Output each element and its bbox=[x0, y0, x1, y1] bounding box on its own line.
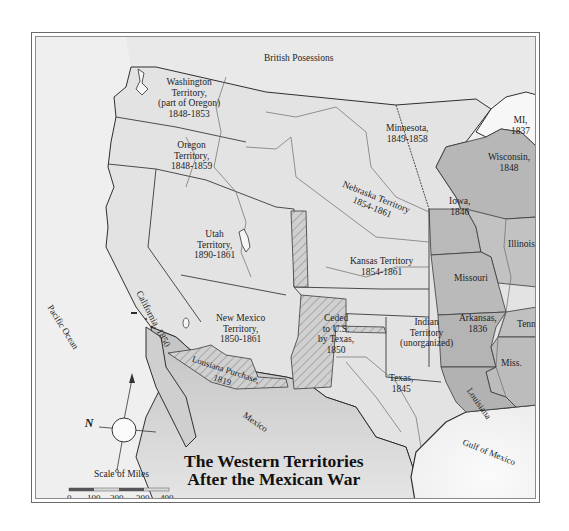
map-title: The Western Territories After the Mexica… bbox=[184, 452, 364, 488]
label-texas: Texas, 1845 bbox=[389, 373, 413, 394]
scale-tick-400: 400 bbox=[160, 493, 174, 499]
scale-bar bbox=[69, 488, 169, 491]
map-title-line-1: The Western Territories bbox=[184, 452, 364, 470]
scale-tick-300: 300 bbox=[136, 493, 150, 499]
scale-tick-0: 0 bbox=[67, 493, 72, 499]
map-title-line-2: After the Mexican War bbox=[184, 470, 364, 488]
compass-north-letter: N bbox=[84, 418, 94, 429]
label-wisconsin: Wisconsin, 1848 bbox=[488, 152, 530, 173]
label-michigan: MI, 1837 bbox=[511, 115, 530, 136]
label-ceded-by-texas: Ceded to U.S. by Texas, 1850 bbox=[318, 313, 354, 355]
scale-title: Scale of Miles bbox=[94, 469, 149, 479]
label-indian-territory: Indian Territory (unorganized) bbox=[400, 317, 453, 349]
label-british-possessions: British Posessions bbox=[264, 53, 333, 64]
scale-tick-100: 100 bbox=[87, 493, 101, 499]
channel-island bbox=[131, 312, 137, 314]
map-canvas: British Posessions Washington Territory,… bbox=[35, 36, 536, 499]
label-mississippi: Miss. bbox=[501, 358, 522, 369]
scale-tick-200: 200 bbox=[110, 493, 124, 499]
label-tennessee: Tenn. bbox=[517, 319, 536, 330]
label-missouri: Missouri bbox=[454, 273, 488, 284]
ceded-strip-north bbox=[291, 211, 308, 287]
map-frame: British Posessions Washington Territory,… bbox=[31, 32, 540, 503]
label-washington-territory: Washington Territory, (part of Oregon) 1… bbox=[158, 77, 220, 119]
label-oregon-territory: Oregon Territory, 1848-1859 bbox=[171, 140, 212, 172]
label-iowa: Iowa, 1846 bbox=[449, 196, 470, 217]
label-arkansas: Arkansas, 1836 bbox=[459, 313, 497, 334]
label-utah-territory: Utah Territory, 1890-1861 bbox=[194, 229, 235, 261]
label-minnesota: Minnesota, 1849-1858 bbox=[386, 123, 428, 144]
label-kansas-territory: Kansas Territory 1854-1861 bbox=[350, 256, 413, 277]
label-new-mexico-territory: New Mexico Territory, 1850-1861 bbox=[216, 313, 265, 345]
label-illinois: Illinois bbox=[508, 239, 535, 250]
salton-sea bbox=[183, 318, 189, 328]
map-graphic bbox=[36, 37, 536, 499]
